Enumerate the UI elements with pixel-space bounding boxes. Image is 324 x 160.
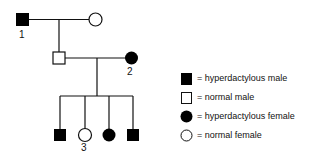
label-2: 2	[127, 67, 133, 77]
legend-filled-square-icon	[181, 73, 192, 85]
legend-open-circle-icon	[181, 130, 192, 141]
affected-male-gen3	[54, 129, 66, 141]
normal-female-gen1	[89, 13, 102, 26]
label-1: 1	[19, 30, 25, 40]
legend-text-normal-female: = normal female	[197, 131, 262, 140]
affected-female-gen3	[103, 129, 116, 142]
legend-text-hyperdactylous-female: = hyperdactylous female	[197, 112, 295, 121]
normal-female-3	[79, 129, 92, 142]
legend-text-hyperdactylous-male: = hyperdactylous male	[197, 74, 287, 83]
affected-male-1	[16, 13, 29, 26]
normal-male-gen2	[53, 52, 65, 64]
legend-open-square-icon	[182, 93, 192, 104]
legend-filled-circle-icon	[181, 111, 193, 123]
affected-male-gen3-2	[127, 129, 139, 141]
label-3: 3	[81, 143, 87, 153]
affected-female-2	[125, 52, 138, 65]
legend-text-normal-male: = normal male	[197, 93, 254, 102]
